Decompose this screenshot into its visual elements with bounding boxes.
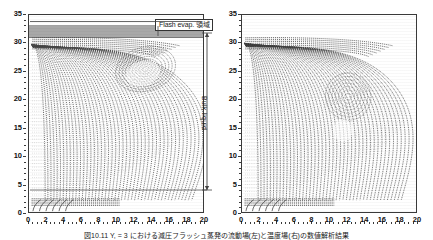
x-tick-minor <box>54 222 55 224</box>
plot-frame-left <box>28 14 204 213</box>
x-tick-label: 18 <box>182 215 190 224</box>
x-tick-minor <box>303 222 304 224</box>
x-tick-minor <box>369 222 370 224</box>
y-tick-minor <box>239 77 241 78</box>
y-tick-minor <box>239 173 241 174</box>
y-tick-minor <box>24 150 26 151</box>
y-tick-major <box>238 42 241 43</box>
x-tick-minor <box>195 222 196 224</box>
y-tick-minor <box>239 82 241 83</box>
y-tick-minor <box>239 88 241 89</box>
x-tick-label: 16 <box>378 215 386 224</box>
y-tick-minor <box>24 196 26 197</box>
x-tick-minor <box>138 222 139 224</box>
y-tick-major <box>238 185 241 186</box>
x-tick-minor <box>391 222 392 224</box>
x-tick-minor <box>351 222 352 224</box>
x-tick-minor <box>263 222 264 224</box>
figure-caption: 図10.11 Y, = 3 における減圧フラッシュ蒸発の流動場(左)と温度場(右… <box>0 231 433 240</box>
x-tick-label: 18 <box>395 215 403 224</box>
temperature-field-panel: 05101520253035 02468101214161820 <box>216 0 433 240</box>
y-tick-label: 30 <box>14 39 22 47</box>
x-tick-minor <box>191 222 192 224</box>
x-tick-minor <box>281 222 282 224</box>
plot-frame-right <box>241 14 417 213</box>
y-tick-minor <box>24 48 26 49</box>
y-tick-minor <box>239 190 241 191</box>
x-tick-label: 0 <box>26 215 30 224</box>
x-tick-minor <box>267 222 268 224</box>
x-tick-minor <box>404 222 405 224</box>
x-tick-minor <box>316 222 317 224</box>
y-tick-major <box>238 99 241 100</box>
y-tick-minor <box>24 122 26 123</box>
x-tick-label: 8 <box>96 215 100 224</box>
x-tick-label: 2 <box>44 215 48 224</box>
y-tick-major <box>23 99 26 100</box>
x-tick-minor <box>298 222 299 224</box>
x-tick-label: 6 <box>79 215 83 224</box>
y-tick-minor <box>24 168 26 169</box>
x-tick-minor <box>41 222 42 224</box>
x-tick-minor <box>178 222 179 224</box>
y-tick-minor <box>24 116 26 117</box>
y-tick-minor <box>239 116 241 117</box>
y-tick-label: 15 <box>229 124 237 132</box>
y-tick-minor <box>24 190 26 191</box>
y-tick-label: 20 <box>229 96 237 104</box>
figure-container: 05101520253035 02468101214161820 Flash e… <box>0 0 433 240</box>
y-tick-minor <box>24 162 26 163</box>
x-tick-minor <box>59 222 60 224</box>
temperature-field-vectors <box>242 15 416 212</box>
x-tick-minor <box>156 222 157 224</box>
y-tick-minor <box>24 94 26 95</box>
y-tick-minor <box>24 207 26 208</box>
x-tick-minor <box>285 222 286 224</box>
y-tick-major <box>238 156 241 157</box>
y-tick-minor <box>24 139 26 140</box>
y-tick-minor <box>239 122 241 123</box>
x-tick-label: 4 <box>274 215 278 224</box>
y-tick-label: 30 <box>229 39 237 47</box>
y-tick-minor <box>24 25 26 26</box>
y-tick-label: 10 <box>229 152 237 160</box>
y-tick-major <box>23 42 26 43</box>
x-tick-label: 2 <box>257 215 261 224</box>
x-tick-minor <box>272 222 273 224</box>
y-tick-label: 0 <box>18 209 22 217</box>
x-tick-minor <box>355 222 356 224</box>
y-tick-label: 10 <box>14 152 22 160</box>
x-tick-label: 10 <box>325 215 333 224</box>
x-tick-minor <box>173 222 174 224</box>
flow-field-streamlines <box>29 15 203 212</box>
y-tick-minor <box>24 179 26 180</box>
y-tick-minor <box>239 150 241 151</box>
y-tick-minor <box>239 202 241 203</box>
x-tick-minor <box>250 222 251 224</box>
y-tick-label: 25 <box>229 67 237 75</box>
x-tick-minor <box>408 222 409 224</box>
y-tick-major <box>238 71 241 72</box>
x-tick-minor <box>386 222 387 224</box>
y-tick-minor <box>24 111 26 112</box>
x-tick-minor <box>103 222 104 224</box>
y-axis-right: 05101520253035 <box>215 14 241 213</box>
y-tick-major <box>23 213 26 214</box>
y-tick-minor <box>239 207 241 208</box>
y-tick-minor <box>239 139 241 140</box>
y-tick-minor <box>24 65 26 66</box>
y-tick-label: 0 <box>233 209 237 217</box>
x-tick-label: 14 <box>360 215 368 224</box>
y-tick-minor <box>239 54 241 55</box>
y-tick-major <box>23 128 26 129</box>
y-tick-minor <box>239 145 241 146</box>
bulk-liquid-label: Bulk liquid <box>201 96 208 130</box>
x-tick-label: 10 <box>112 215 120 224</box>
y-tick-major <box>238 213 241 214</box>
x-tick-minor <box>160 222 161 224</box>
y-tick-minor <box>239 168 241 169</box>
y-tick-minor <box>239 59 241 60</box>
y-tick-minor <box>24 202 26 203</box>
y-tick-minor <box>239 31 241 32</box>
x-tick-label: 14 <box>147 215 155 224</box>
